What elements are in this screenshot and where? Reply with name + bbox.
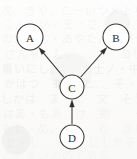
graph-edge-c-to-a — [39, 48, 64, 77]
edge-shaft — [81, 50, 105, 77]
graph-node-c[interactable]: C — [60, 75, 84, 99]
graph-edge-c-to-b — [81, 48, 107, 78]
graph-node-a[interactable]: A — [17, 24, 43, 50]
directed-graph: ABCD — [0, 0, 137, 159]
node-label: D — [68, 132, 76, 144]
graph-node-b[interactable]: B — [103, 24, 129, 50]
graph-nodes: ABCD — [17, 24, 129, 149]
graph-node-d[interactable]: D — [60, 125, 84, 149]
scanned-figure-page: 次、きや、こーいつメ上ち、こん・い・を・さ・ん・ちのか・し・あやたん所がせさんも… — [0, 0, 137, 159]
node-label: C — [68, 82, 75, 94]
graph-edge-d-to-c — [70, 100, 75, 124]
node-label: A — [26, 32, 34, 44]
node-label: B — [112, 32, 119, 44]
arrow-head-icon — [70, 100, 75, 107]
edge-shaft — [41, 51, 63, 77]
